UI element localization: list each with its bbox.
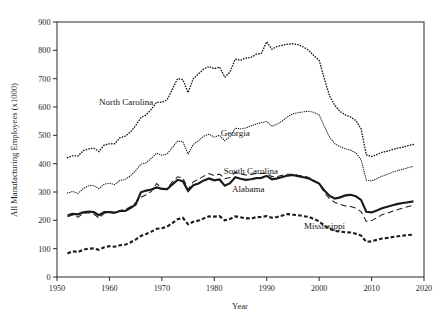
x-tick-label: 2000 xyxy=(311,284,327,293)
y-tick-label: 300 xyxy=(38,188,50,197)
x-tick-label: 2010 xyxy=(363,284,379,293)
series-label-georgia: Georgia xyxy=(221,128,250,138)
y-tick-label: 800 xyxy=(38,46,50,55)
manufacturing-employment-chart: 0100200300400500600700800900 19501960197… xyxy=(0,0,443,319)
x-axis-ticks: 19501960197019801990200020102020 xyxy=(49,277,432,293)
series-line-georgia xyxy=(67,111,413,193)
series-annotations: North CarolinaGeorgiaSouth CarolinaAlaba… xyxy=(99,97,345,231)
y-tick-label: 500 xyxy=(38,131,50,140)
x-axis-title: Year xyxy=(232,301,248,311)
series-label-south-carolina: South Carolina xyxy=(224,166,278,176)
y-tick-label: 400 xyxy=(38,160,50,169)
x-tick-label: 1950 xyxy=(49,284,65,293)
series-label-north-carolina: North Carolina xyxy=(99,97,153,107)
y-axis-ticks: 0100200300400500600700800900 xyxy=(38,18,57,282)
y-tick-label: 200 xyxy=(38,216,50,225)
series-line-mississippi xyxy=(67,214,413,253)
y-tick-label: 100 xyxy=(38,245,50,254)
y-tick-label: 0 xyxy=(46,273,50,282)
x-tick-label: 1980 xyxy=(206,284,222,293)
y-axis-title: All Manufacturing Employees (x1000) xyxy=(9,83,19,217)
chart-svg: 0100200300400500600700800900 19501960197… xyxy=(0,0,443,319)
x-tick-label: 1960 xyxy=(101,284,117,293)
x-tick-label: 1990 xyxy=(259,284,275,293)
series-label-mississippi: Mississippi xyxy=(304,221,346,231)
series-label-alabama: Alabama xyxy=(232,184,264,194)
y-tick-label: 600 xyxy=(38,103,50,112)
y-tick-label: 700 xyxy=(38,75,50,84)
x-tick-label: 2020 xyxy=(416,284,432,293)
y-tick-label: 900 xyxy=(38,18,50,27)
series-group xyxy=(67,42,413,254)
x-tick-label: 1970 xyxy=(154,284,170,293)
